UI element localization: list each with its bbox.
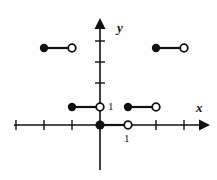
open-point-upper-right xyxy=(180,44,188,52)
open-point-mid-right xyxy=(152,103,160,111)
y-axis-label: y xyxy=(117,21,123,34)
y-axis xyxy=(95,18,106,170)
closed-point-upper-right xyxy=(152,44,160,52)
x-axis-arrow-icon xyxy=(199,120,210,131)
open-point-mid-left xyxy=(96,103,104,111)
closed-point-origin xyxy=(95,120,104,129)
open-endpoints xyxy=(68,44,188,129)
graph-figure: y x 1 1 xyxy=(0,0,217,180)
open-point-upper-left xyxy=(68,44,76,52)
open-point-origin xyxy=(124,121,132,129)
closed-point-mid-left xyxy=(68,103,76,111)
x-one-tick-label: 1 xyxy=(124,133,130,144)
closed-point-upper-left xyxy=(40,44,48,52)
y-axis-arrow-icon xyxy=(95,18,106,29)
x-axis-label: x xyxy=(196,101,203,114)
y-one-tick-label: 1 xyxy=(108,101,114,112)
closed-point-mid-right xyxy=(124,103,132,111)
step-segments xyxy=(44,48,184,125)
plot-canvas xyxy=(0,0,217,180)
